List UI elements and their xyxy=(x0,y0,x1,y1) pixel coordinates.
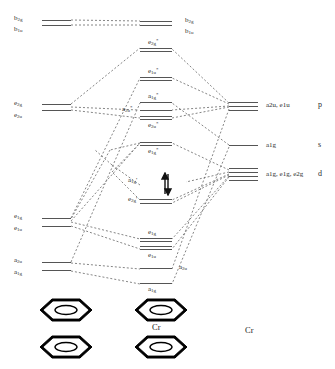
mo-level-b2g xyxy=(140,21,172,22)
mo-level-e1u-b xyxy=(140,249,172,250)
mo-label-e1g-star: e1g* xyxy=(148,147,159,155)
mo-level-e2g-prime-a xyxy=(140,199,172,200)
right-atom-label-cr: Cr xyxy=(245,325,254,335)
metal-label-p: a2u, e1u xyxy=(266,102,290,109)
ligand-level-b1u xyxy=(42,25,71,26)
benzene-ring-left-top xyxy=(38,295,94,325)
mo-level-e1g-b xyxy=(140,241,172,242)
mo-level-e1g-star-a xyxy=(140,142,172,143)
mo-label-e1u: e1u xyxy=(148,252,156,259)
mo-diagram-canvas: b2g b1u e2g e2u e1g e1u a2u a1g xyxy=(0,0,335,369)
ligand-label-a1g: a1g xyxy=(14,269,22,276)
shell-label-p: p xyxy=(318,100,322,109)
metal-level-p-1 xyxy=(229,102,258,103)
metal-level-p-3 xyxy=(229,110,258,111)
mo-level-e1u-star-b xyxy=(140,80,172,81)
ligand-label-e1g: e1g xyxy=(14,213,22,220)
mo-level-e1u-star-a xyxy=(140,77,172,78)
ligand-label-e2u: e2u xyxy=(14,112,22,119)
mo-level-e2u-star-a xyxy=(140,116,172,117)
mo-label-a1g-star: a1g* xyxy=(148,92,159,100)
mo-label-e2g-prime: e2g' xyxy=(128,196,137,203)
ligand-level-e1g xyxy=(42,218,71,219)
ligand-label-e1u: e1u xyxy=(14,225,22,232)
mo-level-e2g-star-a xyxy=(140,48,172,49)
shell-label-d: d xyxy=(318,169,322,178)
metal-level-d-2 xyxy=(229,172,258,173)
mo-label-e2g-star: e2g* xyxy=(148,38,159,46)
mo-level-a1g-star xyxy=(140,102,172,103)
mo-label-a2u: a2u xyxy=(179,264,187,271)
mo-level-e1g-a xyxy=(140,238,172,239)
ligand-label-e2g: e2g xyxy=(14,100,22,107)
mo-level-b1u xyxy=(140,25,172,26)
benzene-ring-left-bottom xyxy=(38,332,94,362)
ligand-level-a1g xyxy=(42,270,71,271)
mo-level-e1u-a xyxy=(140,246,172,247)
electron-pair-arrows xyxy=(158,172,176,196)
mo-level-e2g-prime-b xyxy=(140,203,172,204)
ligand-level-e1u xyxy=(42,226,71,227)
mo-level-e2u-star-b xyxy=(140,119,172,120)
ligand-level-e2u xyxy=(42,110,71,111)
mo-level-a1g-bonding xyxy=(140,283,172,284)
mo-label-b1u: b1u xyxy=(185,28,194,35)
metal-level-s xyxy=(229,145,258,146)
metal-level-d-1 xyxy=(229,168,258,169)
ligand-label-b1u: b1u xyxy=(14,26,23,33)
mo-level-a2u xyxy=(140,268,172,269)
metal-level-d-3 xyxy=(229,176,258,177)
metal-label-s: a1g xyxy=(266,142,276,149)
ligand-level-e2g xyxy=(42,104,71,105)
ligand-label-b2g: b2g xyxy=(14,15,23,22)
ligand-label-a2u: a2u xyxy=(14,257,22,264)
mo-level-e1g-star-b xyxy=(140,145,172,146)
center-molecule-label-cr: Cr xyxy=(152,322,161,332)
mo-level-e2g-star-b xyxy=(140,51,172,52)
ligand-level-b2g xyxy=(42,20,71,21)
benzene-ring-right-bottom xyxy=(133,332,189,362)
mo-label-e2u-star: e2u* xyxy=(148,121,159,129)
mo-label-e1u-star: e1u* xyxy=(148,67,159,75)
metal-label-d: a1g, e1g, e2g xyxy=(266,171,303,178)
shell-label-s: s xyxy=(318,140,321,149)
benzene-ring-right-top xyxy=(133,295,189,325)
mo-label-b2g: b2g xyxy=(185,17,194,24)
mo-label-a1g-prime: a1g' xyxy=(128,177,137,184)
ligand-level-a2u xyxy=(42,262,71,263)
mo-label-a2u-star: a2u* xyxy=(122,105,133,113)
metal-level-p-2 xyxy=(229,106,258,107)
mo-label-a1g-bonding: a1g xyxy=(148,286,156,293)
metal-level-d-4 xyxy=(229,180,258,181)
mo-level-a2u-star xyxy=(140,110,172,111)
mo-label-e1g: e1g xyxy=(148,229,156,236)
